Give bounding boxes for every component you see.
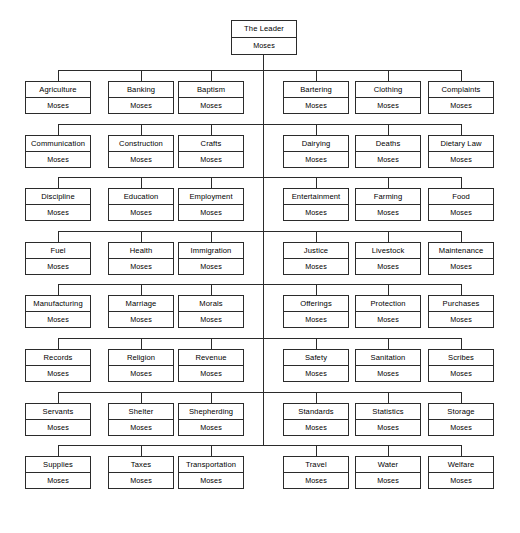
row-7-right-3-stub [461, 392, 462, 403]
node-dietary-law[interactable]: Dietary LawMoses [428, 135, 494, 168]
row-8-left-3-stub [211, 445, 212, 456]
node-title: Records [26, 350, 90, 366]
row-3-left-1-stub [58, 177, 59, 188]
node-justice[interactable]: JusticeMoses [283, 242, 349, 275]
node-title: Welfare [429, 457, 493, 473]
node-title: Employment [179, 189, 243, 205]
node-title: Maintenance [429, 243, 493, 259]
node-title: Fuel [26, 243, 90, 259]
node-discipline[interactable]: DisciplineMoses [25, 188, 91, 221]
node-communication[interactable]: CommunicationMoses [25, 135, 91, 168]
node-supplies[interactable]: SuppliesMoses [25, 456, 91, 489]
node-person: Moses [109, 420, 173, 436]
node-title: Farming [356, 189, 420, 205]
row-8-left-1-stub [58, 445, 59, 456]
node-farming[interactable]: FarmingMoses [355, 188, 421, 221]
node-water[interactable]: WaterMoses [355, 456, 421, 489]
node-the-leader[interactable]: The Leader Moses [231, 20, 297, 55]
node-crafts[interactable]: CraftsMoses [178, 135, 244, 168]
node-person: Moses [356, 98, 420, 114]
node-complaints[interactable]: ComplaintsMoses [428, 81, 494, 114]
row-5-right-2-stub [388, 284, 389, 295]
node-fuel[interactable]: FuelMoses [25, 242, 91, 275]
node-title: Travel [284, 457, 348, 473]
row-6-right-bar [263, 338, 461, 339]
node-statistics[interactable]: StatisticsMoses [355, 403, 421, 436]
node-person: Moses [26, 473, 90, 489]
node-maintenance[interactable]: MaintenanceMoses [428, 242, 494, 275]
node-title: Discipline [26, 189, 90, 205]
node-person: Moses [109, 312, 173, 328]
node-dairying[interactable]: DairyingMoses [283, 135, 349, 168]
node-person: Moses [26, 205, 90, 221]
row-4-right-bar [263, 231, 461, 232]
node-revenue[interactable]: RevenueMoses [178, 349, 244, 382]
node-religion[interactable]: ReligionMoses [108, 349, 174, 382]
node-shepherding[interactable]: ShepherdingMoses [178, 403, 244, 436]
node-sanitation[interactable]: SanitationMoses [355, 349, 421, 382]
node-food[interactable]: FoodMoses [428, 188, 494, 221]
node-purchases[interactable]: PurchasesMoses [428, 295, 494, 328]
node-shelter[interactable]: ShelterMoses [108, 403, 174, 436]
row-7-left-bar [58, 392, 263, 393]
node-title: Clothing [356, 82, 420, 98]
node-morals[interactable]: MoralsMoses [178, 295, 244, 328]
node-title: Manufacturing [26, 296, 90, 312]
node-livestock[interactable]: LivestockMoses [355, 242, 421, 275]
node-safety[interactable]: SafetyMoses [283, 349, 349, 382]
node-title: Sanitation [356, 350, 420, 366]
node-person: Moses [429, 420, 493, 436]
row-1-left-2-stub [141, 70, 142, 81]
row-8-right-1-stub [316, 445, 317, 456]
node-welfare[interactable]: WelfareMoses [428, 456, 494, 489]
node-bartering[interactable]: BarteringMoses [283, 81, 349, 114]
node-person: Moses [109, 205, 173, 221]
node-immigration[interactable]: ImmigrationMoses [178, 242, 244, 275]
node-person: Moses [284, 152, 348, 168]
node-construction[interactable]: ConstructionMoses [108, 135, 174, 168]
node-employment[interactable]: EmploymentMoses [178, 188, 244, 221]
row-6-left-2-stub [141, 338, 142, 349]
node-records[interactable]: RecordsMoses [25, 349, 91, 382]
node-deaths[interactable]: DeathsMoses [355, 135, 421, 168]
node-education[interactable]: EducationMoses [108, 188, 174, 221]
node-title: Entertainment [284, 189, 348, 205]
node-title: Revenue [179, 350, 243, 366]
node-clothing[interactable]: ClothingMoses [355, 81, 421, 114]
row-3-right-3-stub [461, 177, 462, 188]
node-travel[interactable]: TravelMoses [283, 456, 349, 489]
node-banking[interactable]: BankingMoses [108, 81, 174, 114]
node-title: Servants [26, 404, 90, 420]
node-title: Dietary Law [429, 136, 493, 152]
node-person: Moses [429, 259, 493, 275]
node-person: Moses [284, 98, 348, 114]
node-servants[interactable]: ServantsMoses [25, 403, 91, 436]
row-2-right-3-stub [461, 124, 462, 135]
node-transportation[interactable]: TransportationMoses [178, 456, 244, 489]
node-offerings[interactable]: OfferingsMoses [283, 295, 349, 328]
node-person: Moses [26, 259, 90, 275]
row-1-left-3-stub [211, 70, 212, 81]
row-2-right-2-stub [388, 124, 389, 135]
node-entertainment[interactable]: EntertainmentMoses [283, 188, 349, 221]
node-title: Storage [429, 404, 493, 420]
row-1-right-3-stub [461, 70, 462, 81]
node-baptism[interactable]: BaptismMoses [178, 81, 244, 114]
node-standards[interactable]: StandardsMoses [283, 403, 349, 436]
row-8-left-2-stub [141, 445, 142, 456]
node-person: Moses [356, 473, 420, 489]
row-4-left-3-stub [211, 231, 212, 242]
node-taxes[interactable]: TaxesMoses [108, 456, 174, 489]
node-health[interactable]: HealthMoses [108, 242, 174, 275]
node-manufacturing[interactable]: ManufacturingMoses [25, 295, 91, 328]
row-5-left-3-stub [211, 284, 212, 295]
node-title: Justice [284, 243, 348, 259]
node-protection[interactable]: ProtectionMoses [355, 295, 421, 328]
node-scribes[interactable]: ScribesMoses [428, 349, 494, 382]
node-agriculture[interactable]: AgricultureMoses [25, 81, 91, 114]
node-marriage[interactable]: MarriageMoses [108, 295, 174, 328]
node-person: Moses [109, 473, 173, 489]
row-6-right-2-stub [388, 338, 389, 349]
node-person: Moses [429, 98, 493, 114]
node-storage[interactable]: StorageMoses [428, 403, 494, 436]
